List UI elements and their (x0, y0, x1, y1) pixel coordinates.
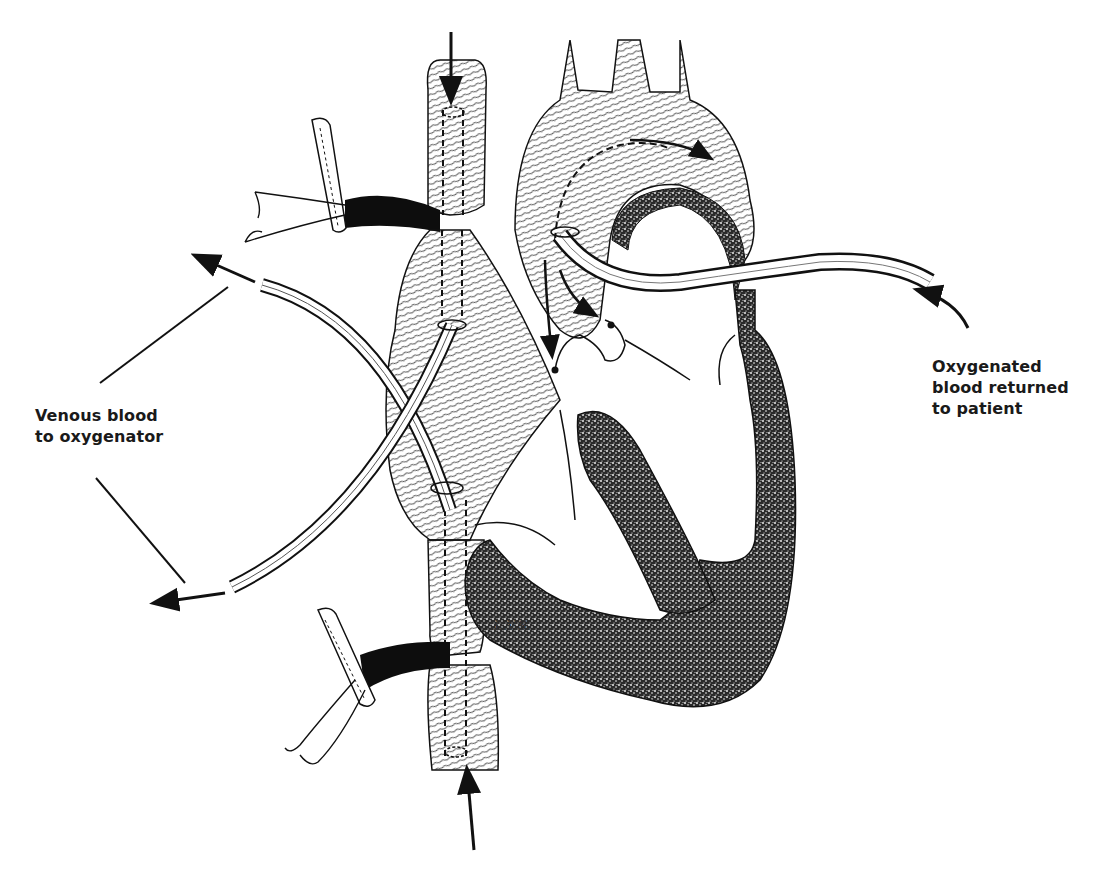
artist-signature: L.V.S. (494, 618, 531, 633)
tourniquet-top (245, 118, 440, 242)
venous-label-line2: to oxygenator (35, 426, 195, 447)
arterial-inflow-arrow (918, 290, 968, 328)
inflow-arrow-bottom (467, 770, 474, 850)
oxygenated-blood-label: Oxygenated blood returned to patient (932, 356, 1097, 419)
oxygenated-label-line1: Oxygenated (932, 356, 1097, 377)
tourniquet-bottom (285, 608, 450, 764)
venous-blood-label: Venous blood to oxygenator (35, 405, 195, 447)
venous-label-line1: Venous blood (35, 405, 195, 426)
oxygenated-label-line3: to patient (932, 398, 1097, 419)
interventricular-septum (578, 412, 716, 614)
aorta (515, 40, 754, 338)
superior-vena-cava (428, 60, 487, 215)
oxygenated-label-line2: blood returned (932, 377, 1097, 398)
